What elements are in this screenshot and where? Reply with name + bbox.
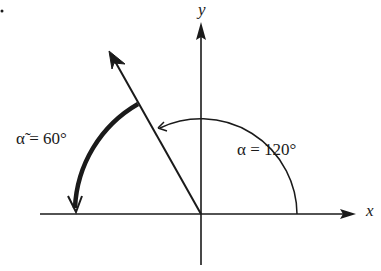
stray-dot [1,10,4,13]
y-axis-label: y [198,0,206,20]
alpha-label: α = 120° [237,140,296,160]
reference-angle-arc [68,104,138,212]
diagram-canvas: y x α = 120° α̃ = 60° [0,0,381,271]
terminal-side-ray [109,51,201,214]
alpha-arc [158,119,297,214]
y-axis [196,22,206,265]
x-axis-label: x [366,201,374,221]
reference-angle-label: α̃ = 60° [16,129,67,149]
